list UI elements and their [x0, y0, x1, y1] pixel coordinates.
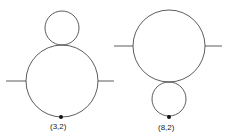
diagram-canvas	[0, 0, 227, 137]
small-circle-bottom	[152, 82, 186, 116]
vertex-dot	[59, 115, 63, 119]
small-circle-top	[45, 11, 79, 45]
diagram-right	[114, 10, 222, 119]
diagram-label-right: (8,2)	[158, 123, 174, 132]
diagram-label-left: (3,2)	[50, 122, 66, 131]
large-circle	[26, 45, 98, 117]
diagram-left	[6, 11, 114, 119]
large-circle	[133, 10, 205, 82]
vertex-dot	[167, 115, 171, 119]
